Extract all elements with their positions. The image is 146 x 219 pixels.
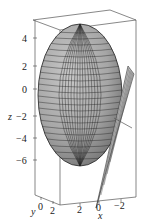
y-tick-label: 2 xyxy=(50,205,55,216)
z-tick-label: −6 xyxy=(16,155,27,166)
z-tick-label: −4 xyxy=(16,133,27,144)
z-tick-label: −2 xyxy=(16,111,27,122)
ellipsoid-surface xyxy=(38,24,122,166)
z-tick-label: 2 xyxy=(22,61,27,72)
y-tick-label: 0 xyxy=(38,201,43,212)
z-tick-label: 0 xyxy=(22,84,27,95)
x-axis-label: x xyxy=(97,210,103,219)
x-tick-label: −2 xyxy=(114,200,125,211)
z-axis-label: z xyxy=(7,111,12,122)
y-axis-label: y xyxy=(30,206,36,217)
x-tick-label: 2 xyxy=(77,204,82,215)
ellipsoid-plane-3d-plot: 4 2 0 −2 −4 −6 z 0 2 y 2 0 −2 x xyxy=(0,0,146,219)
z-tick-label: 4 xyxy=(22,33,27,44)
